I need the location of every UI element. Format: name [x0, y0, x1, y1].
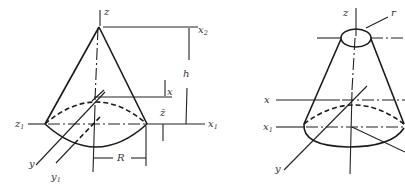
label-frustum-z: z [342, 7, 349, 18]
r-leader [366, 17, 388, 28]
label-x2: x2 [198, 24, 208, 37]
h-dim-lower [186, 88, 187, 124]
label-x1: x1 [208, 118, 218, 131]
frustum-base-back [304, 105, 404, 124]
label-z1: z1 [14, 118, 24, 131]
base-ellipse-back [45, 102, 147, 124]
frustum-left-edge [304, 39, 341, 124]
cone-left-edge [45, 27, 99, 124]
label-frustum-x: x [264, 94, 270, 105]
frustum-z-centerline [352, 38, 355, 90]
base-ellipse-front [45, 124, 147, 147]
left-cone-figure: z x2 h x z̄ z1 x1 y y1 R [14, 6, 218, 184]
label-z: z [103, 6, 110, 17]
label-frustum-x1: x1 [263, 121, 273, 134]
label-R: R [116, 152, 125, 163]
label-h: h [183, 68, 189, 79]
frustum-right-edge [371, 39, 404, 124]
cone-right-edge [99, 27, 147, 124]
z-axis-lower [93, 105, 95, 172]
cone-diagrams: z x2 h x z̄ z1 x1 y y1 R [0, 0, 405, 187]
label-zbar: z̄ [159, 107, 166, 118]
label-y: y [28, 158, 35, 169]
y1-axis [56, 143, 75, 163]
label-y1: y1 [50, 171, 61, 184]
z-axis-centerline [95, 28, 98, 100]
frustum-base-radius-line [352, 127, 405, 152]
label-frustum-y: y [274, 163, 281, 174]
right-frustum-figure: z r x x1 y [263, 7, 405, 174]
label-x: x [167, 86, 173, 97]
label-r: r [391, 7, 397, 18]
y1-axis-hidden [75, 117, 100, 143]
